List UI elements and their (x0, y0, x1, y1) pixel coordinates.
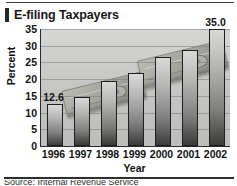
y-tick-label: 0 (3, 141, 37, 151)
bar-2001 (182, 50, 198, 146)
source-caption-text: Source: Internal Revenue Service (4, 180, 234, 186)
gridline (41, 29, 230, 30)
bar-1999 (128, 73, 144, 146)
y-axis-label: Percent (5, 31, 17, 101)
bar-value-label-1996: 12.6 (34, 91, 74, 103)
bar-2000 (155, 57, 171, 146)
title-accent-bar (5, 8, 9, 22)
page-title: E-filing Taxpayers (14, 8, 119, 22)
bar-1996 (47, 104, 63, 146)
x-tick-label-2002: 2002 (198, 148, 234, 160)
chart-title-row: E-filing Taxpayers (5, 7, 119, 22)
bar-1998 (101, 81, 117, 146)
top-divider (6, 2, 234, 3)
x-axis-label: Year (40, 162, 229, 174)
y-tick-label: 5 (3, 124, 37, 134)
chart-figure: E-filing Taxpayers 05101520253035 Percen… (0, 0, 237, 186)
bar-1997 (74, 97, 90, 146)
bottom-divider (4, 177, 234, 179)
source-caption-clipped: Source: Internal Revenue Service (4, 180, 234, 186)
gridline (41, 46, 230, 47)
bar-2002 (209, 29, 225, 146)
x-axis-ticks: 1996199719981999200020012002 (40, 148, 229, 161)
y-tick-label: 10 (3, 108, 37, 118)
gridline (41, 62, 230, 63)
plot-area: $ $ (40, 29, 230, 147)
bar-value-label-2002: 35.0 (196, 16, 236, 28)
